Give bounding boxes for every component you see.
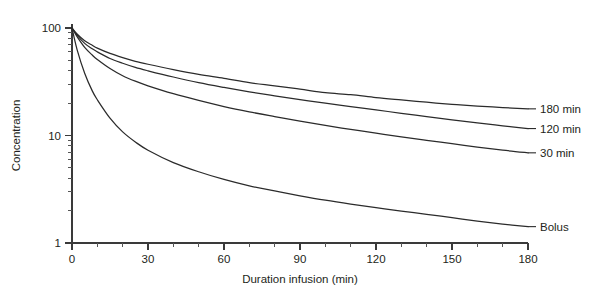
x-tick-label: 60: [218, 253, 231, 265]
x-axis-title: Duration infusion (min): [242, 273, 358, 285]
x-tick-label: 180: [518, 253, 537, 265]
series-label-30-min: 30 min: [540, 147, 575, 159]
x-tick-label: 120: [366, 253, 385, 265]
series-label-120-min: 120 min: [540, 123, 581, 135]
x-tick-label: 0: [69, 253, 75, 265]
series-label-bolus: Bolus: [540, 221, 569, 233]
chart-figure: 110100 0306090120150180 180 min120 min30…: [0, 0, 603, 299]
series-label-180-min: 180 min: [540, 103, 581, 115]
y-tick-label: 10: [48, 130, 61, 142]
x-tick-label: 30: [142, 253, 155, 265]
y-tick-label: 100: [42, 22, 61, 34]
y-tick-label: 1: [55, 237, 61, 249]
y-axis-title: Concentration: [10, 100, 22, 172]
x-tick-label: 90: [294, 253, 307, 265]
x-tick-label: 150: [442, 253, 461, 265]
concentration-decay-chart: 110100 0306090120150180 180 min120 min30…: [0, 0, 603, 299]
